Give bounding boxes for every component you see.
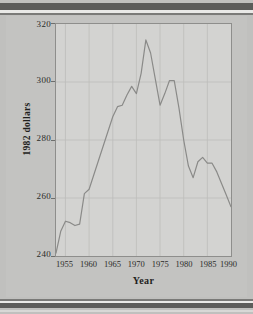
x-tick-label-1965: 1965 bbox=[104, 259, 121, 269]
x-tick-label-1955: 1955 bbox=[56, 259, 73, 269]
x-axis-tick-labels: 1955 1960 1965 1970 1975 1980 1985 1990 bbox=[55, 259, 232, 273]
horizontal-gridlines bbox=[56, 82, 231, 198]
plot-area bbox=[55, 23, 232, 257]
page-rule-bottom-edge bbox=[0, 310, 253, 312]
page-rule-top-dark bbox=[0, 3, 253, 10]
page-rule-top-thin bbox=[0, 13, 253, 15]
x-axis-title: Year bbox=[55, 275, 232, 286]
x-tick-label-1985: 1985 bbox=[200, 259, 217, 269]
y-tick-label-240: 240 bbox=[11, 249, 51, 259]
data-line-series-0 bbox=[56, 40, 231, 253]
scanned-page: 320 300 280 260 240 1955 1960 bbox=[0, 0, 253, 314]
chart-svg bbox=[56, 24, 231, 256]
page-rule-bottom-dark bbox=[0, 303, 253, 308]
line-chart: 320 300 280 260 240 1955 1960 bbox=[6, 16, 247, 297]
y-axis-title: 1982 dollars bbox=[22, 87, 32, 171]
figure-area: 320 300 280 260 240 1955 1960 bbox=[6, 16, 247, 297]
x-tick-label-1980: 1980 bbox=[176, 259, 193, 269]
x-tick-label-1970: 1970 bbox=[128, 259, 145, 269]
x-tick-label-1975: 1975 bbox=[152, 259, 169, 269]
y-tick-label-260: 260 bbox=[11, 191, 51, 201]
y-tick-label-300: 300 bbox=[11, 75, 51, 85]
y-tick-label-320: 320 bbox=[11, 19, 51, 29]
x-tick-label-1960: 1960 bbox=[80, 259, 97, 269]
x-tick-label-1990: 1990 bbox=[220, 259, 237, 269]
